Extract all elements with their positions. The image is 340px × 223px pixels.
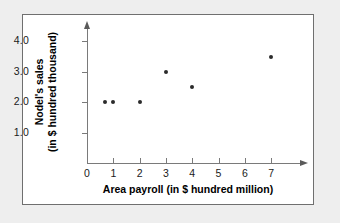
x-axis-tick-label: 4 [182,167,202,179]
y-axis-tick [82,133,88,134]
x-axis-tick-label: 7 [261,167,281,179]
figure-root: 1.02.03.04.0 01234567 Area payroll (in $… [0,0,340,223]
y-axis-title-line-1: Nodel's sales [33,17,46,167]
chart-card: 1.02.03.04.0 01234567 Area payroll (in $… [22,14,314,205]
x-axis-tick [166,158,167,164]
y-axis-title: Nodel's sales (in $ hundred thousand) [33,17,59,167]
x-axis-tick [245,158,246,164]
x-axis-tick [219,158,220,164]
y-axis-tick-label: 4.0 [0,34,29,46]
y-axis-tick [82,41,88,42]
x-axis-tick [87,158,88,164]
y-axis-tick [82,72,88,73]
y-axis-title-line-2: (in $ hundred thousand) [46,17,59,167]
data-point [103,100,107,104]
x-axis-tick-label: 2 [130,167,150,179]
data-point [190,85,194,89]
y-axis-tick-label: 1.0 [0,126,29,138]
x-axis-tick-label: 0 [77,167,97,179]
x-axis-line [87,163,302,164]
x-axis-tick-label: 1 [103,167,123,179]
y-axis-tick-label: 2.0 [0,95,29,107]
x-axis-tick [192,158,193,164]
x-axis-tick [271,158,272,164]
scatter-plot-area: 1.02.03.04.0 01234567 Area payroll (in $… [23,15,315,206]
data-point [111,100,115,104]
data-point [164,70,168,74]
y-axis-arrow-icon [84,21,90,29]
y-axis-line [87,28,88,164]
x-axis-tick-label: 3 [156,167,176,179]
y-axis-tick-label: 3.0 [0,65,29,77]
x-axis-arrow-icon [300,160,308,166]
x-axis-tick-label: 5 [209,167,229,179]
data-point [138,100,142,104]
x-axis-tick-label: 6 [235,167,255,179]
x-axis-tick [140,158,141,164]
x-axis-tick [113,158,114,164]
y-axis-tick [82,102,88,103]
data-point [269,55,273,59]
x-axis-title: Area payroll (in $ hundred million) [63,183,313,195]
